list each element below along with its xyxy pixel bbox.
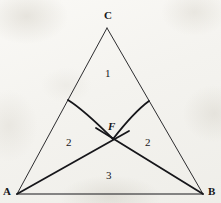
- triangle-side-cb: [107, 28, 203, 194]
- region-label-left: 2: [66, 137, 72, 148]
- vertex-label-a: A: [3, 186, 11, 197]
- arc-left-branch-to-f: [68, 100, 113, 139]
- geometry-figure: C A B F 1 2 2 3: [0, 0, 221, 203]
- arc-right-branch-to-f: [113, 101, 149, 139]
- point-label-f: F: [108, 121, 115, 132]
- region-label-bottom: 3: [106, 170, 112, 181]
- vertex-label-c: C: [104, 10, 112, 21]
- region-label-top: 1: [105, 68, 111, 79]
- region-label-right: 2: [145, 137, 151, 148]
- vertex-label-b: B: [208, 186, 215, 197]
